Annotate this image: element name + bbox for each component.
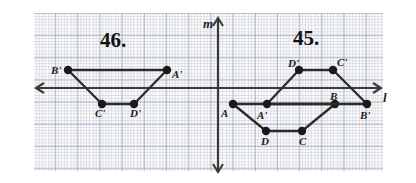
label-45-b-prime: B' [360,109,370,121]
worksheet-page: 46. 45. l m B' A' D' C' A B C D A' B' C'… [0,0,416,183]
problem-46-number: 46. [100,28,126,53]
label-46-b-prime: B' [51,64,61,76]
axis-m [213,18,223,172]
label-45-a-prime: A' [257,109,267,121]
vertex-45-d [262,127,270,135]
label-46-d-prime: D' [130,107,141,119]
vertex-45-a-prime [263,100,271,108]
label-45-d-prime: D' [288,57,299,69]
vertex-46-b-prime [64,66,72,74]
label-46-c-prime: C' [95,107,105,119]
label-45-b: B [330,90,337,102]
label-45-d: D [261,135,269,147]
label-45-c-prime: C' [337,56,347,68]
vertex-45-a [229,100,237,108]
vertex-45-c [298,127,306,135]
l-axis-label: l [383,90,387,106]
label-45-a: A [221,107,228,119]
label-46-a-prime: A' [172,68,182,80]
m-axis-label: m [203,16,213,32]
vertex-45-c-prime [329,66,337,74]
vertex-45-b-prime [363,100,371,108]
vertex-46-a-prime [163,66,171,74]
problem-45-number: 45. [293,26,319,51]
label-45-c: C [299,135,306,147]
